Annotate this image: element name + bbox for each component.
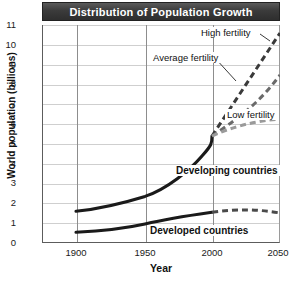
xtick-2050: 2050 — [255, 247, 301, 258]
chart-title-banner: Distribution of Population Growth — [42, 2, 280, 21]
xtick-1950: 1950 — [122, 247, 168, 258]
x-axis-label: Year — [42, 262, 280, 274]
annotation-developed-countries: Developed countries — [148, 225, 250, 236]
ytick-0: 0 — [0, 238, 16, 247]
xtick-2000: 2000 — [189, 247, 235, 258]
annotation-high-fertility: High fertility — [199, 27, 253, 38]
y-axis-label: World population (billions) — [6, 9, 17, 223]
chart-title: Distribution of Population Growth — [69, 6, 252, 18]
curve-developed-projection — [212, 210, 280, 213]
xtick-1900: 1900 — [53, 247, 99, 258]
annotation-developing-countries: Developing countries — [174, 165, 280, 176]
leader-line-high-fertility — [260, 34, 270, 41]
annotation-average-fertility: Average fertility — [151, 52, 220, 63]
annotation-low-fertility: Low fertility — [225, 109, 277, 120]
population-growth-chart: Distribution of Population Growth — [0, 0, 301, 282]
